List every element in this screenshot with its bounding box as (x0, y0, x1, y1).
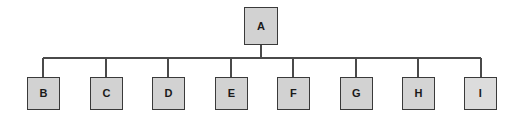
tree-node-g[interactable]: G (340, 77, 373, 110)
tree-diagram: ABCDEFGHI (0, 0, 519, 119)
tree-node-f[interactable]: F (277, 77, 310, 110)
tree-node-e[interactable]: E (215, 77, 248, 110)
node-label-i: I (479, 88, 482, 99)
node-label-f: F (290, 88, 297, 99)
tree-node-c[interactable]: C (90, 77, 123, 110)
tree-node-d[interactable]: D (152, 77, 185, 110)
tree-node-a[interactable]: A (244, 7, 278, 45)
node-label-g: G (352, 88, 361, 99)
tree-node-i[interactable]: I (464, 77, 497, 110)
tree-node-h[interactable]: H (402, 77, 435, 110)
node-label-a: A (257, 20, 265, 31)
node-label-d: D (164, 88, 172, 99)
node-label-h: H (414, 88, 422, 99)
node-label-e: E (228, 88, 236, 99)
tree-node-b[interactable]: B (27, 77, 60, 110)
node-label-c: C (102, 88, 110, 99)
node-label-b: B (39, 88, 47, 99)
